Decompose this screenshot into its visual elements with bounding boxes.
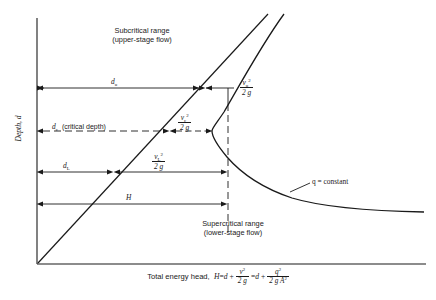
- velocity-head-upper-label: vu2 2 g: [240, 78, 253, 97]
- critical-depth-label: dc (critical depth): [52, 122, 106, 132]
- velocity-head-critical-label: vc2 2 g: [178, 113, 191, 132]
- specific-energy-diagram: [0, 0, 436, 300]
- dimension-depth-upper: [37, 85, 206, 90]
- subcritical-range-label: Subcritical range (upper-stage flow): [82, 26, 202, 44]
- supercritical-range-label: Supercritical range (lower-stage flow): [175, 219, 291, 237]
- figure-page: Depth, d Subcritical range (upper-stage …: [0, 0, 436, 300]
- dimension-total-head: [37, 201, 228, 206]
- y-axis-title: Depth, d: [14, 99, 23, 159]
- y-axis-title-text: Depth, d: [14, 115, 23, 141]
- depth-lower-label: dL: [63, 161, 70, 170]
- dimension-depth-lower: [37, 169, 114, 174]
- depth-upper-label: du: [111, 77, 117, 86]
- velocity-head-lower-label: vL2 2 g: [152, 152, 165, 171]
- dimension-velocity-head-lower: [114, 169, 228, 174]
- q-constant-label: q = constant: [312, 177, 348, 186]
- total-head-label: H: [126, 193, 131, 202]
- q-constant-leader-line: [290, 183, 310, 192]
- total-energy-head-equation: Total energy head, H=d + v2 2 g =d + q2 …: [0, 268, 436, 285]
